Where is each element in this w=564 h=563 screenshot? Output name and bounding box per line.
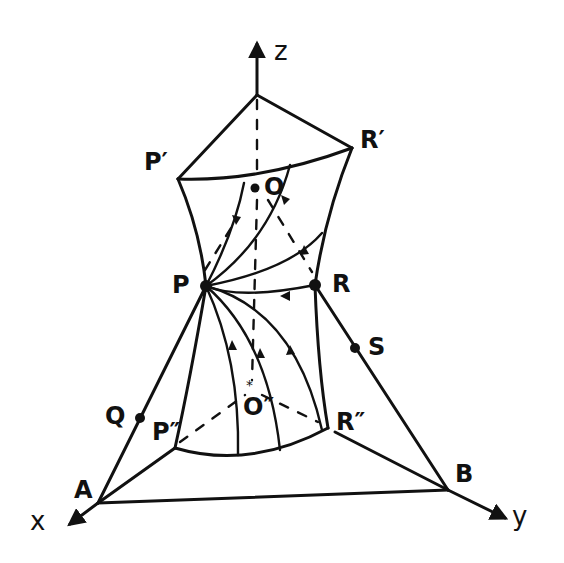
label-p: P (172, 273, 190, 297)
y-axis-label: y (512, 503, 527, 529)
y-axis (448, 490, 505, 518)
point-r (309, 279, 321, 291)
label-q: Q (105, 404, 125, 428)
point-p (200, 280, 212, 292)
point-s (350, 343, 360, 353)
label-o-dprime: O″ (243, 395, 274, 419)
label-p-prime: P′ (144, 150, 168, 174)
label-s: S (368, 335, 385, 359)
label-r-dprime: R″ (336, 410, 365, 434)
label-b: B (455, 462, 473, 486)
point-q (135, 413, 145, 423)
z-axis-label: z (274, 38, 288, 64)
diagram-canvas: * z x y P′ R′ O P R S Q P″ R″ O″ A B (0, 0, 564, 563)
label-r-prime: R′ (360, 128, 385, 152)
x-axis-label: x (30, 508, 45, 534)
trajectories-lower (206, 286, 322, 455)
label-p-dprime: P″ (152, 420, 180, 444)
label-a: A (74, 478, 93, 502)
label-o: O (264, 175, 284, 199)
point-o (251, 184, 260, 193)
top-cone (178, 95, 352, 179)
o-dprime-marker: * (246, 377, 253, 393)
x-axis (70, 503, 98, 524)
label-r: R (332, 272, 350, 296)
